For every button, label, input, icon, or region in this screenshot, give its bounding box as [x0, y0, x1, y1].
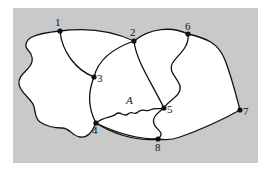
region-label-a: A	[125, 94, 133, 106]
node-1	[57, 28, 62, 33]
node-label-1: 1	[55, 16, 61, 28]
node-5	[161, 105, 166, 110]
node-2	[131, 38, 136, 43]
node-label-6: 6	[185, 20, 191, 32]
node-7	[237, 107, 242, 112]
node-label-2: 2	[130, 26, 136, 38]
node-label-3: 3	[97, 72, 103, 84]
graph-diagram: 1 2 3 4 5 6 7 8 A	[0, 0, 271, 173]
node-label-8: 8	[155, 141, 161, 153]
node-label-4: 4	[92, 124, 98, 136]
outer-boundary	[19, 29, 240, 139]
node-6	[185, 31, 190, 36]
node-label-7: 7	[243, 105, 249, 117]
node-3	[91, 74, 96, 79]
node-label-5: 5	[167, 103, 173, 115]
